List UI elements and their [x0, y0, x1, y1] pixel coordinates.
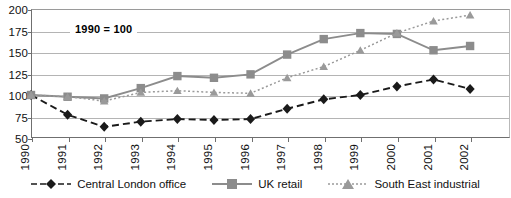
x-axis-tick-label: 1994: [165, 144, 177, 170]
y-axis-tick-label: 75: [15, 112, 28, 124]
gridline: [32, 96, 509, 97]
x-axis-tick-mark: [142, 137, 143, 142]
x-axis-tick-mark: [435, 137, 436, 142]
x-axis-tick-label: 2002: [458, 144, 470, 170]
diamond-marker-icon: [31, 177, 71, 191]
x-axis-tick-mark: [178, 137, 179, 142]
legend-item-south-east-industrial[interactable]: South East industrial: [328, 177, 479, 191]
x-axis-tick-mark: [288, 137, 289, 142]
y-axis-tick-label: 100: [9, 90, 29, 102]
x-axis-tick-mark: [471, 137, 472, 142]
x-axis-tick-mark: [398, 137, 399, 142]
x-axis-tick-label: 2001: [422, 144, 434, 170]
gridline: [32, 75, 509, 76]
y-axis-tick-mark: [28, 118, 32, 119]
y-axis-tick-label: 125: [9, 69, 29, 81]
y-axis-tick-label: 175: [9, 26, 29, 38]
x-axis-tick-label: 1991: [56, 144, 68, 170]
x-axis-tick-label: 1990: [19, 144, 31, 170]
x-axis-tick-mark: [32, 137, 33, 142]
gridline: [32, 118, 509, 119]
legend-item-central-london-office[interactable]: Central London office: [31, 177, 186, 191]
x-axis-tick-mark: [69, 137, 70, 142]
x-axis-tick-label: 1997: [275, 144, 287, 170]
y-axis-tick-mark: [28, 10, 32, 11]
base-year-annotation: 1990 = 100: [70, 23, 137, 35]
x-axis-tick-mark: [252, 137, 253, 142]
x-axis-tick-label: 1993: [129, 144, 141, 170]
y-axis-tick-mark: [28, 32, 32, 33]
x-axis-tick-label: 1996: [239, 144, 251, 170]
x-axis-tick-label: 1995: [202, 144, 214, 170]
x-axis-tick-mark: [105, 137, 106, 142]
legend-label: South East industrial: [374, 178, 479, 190]
y-axis-tick-mark: [28, 75, 32, 76]
y-axis-tick-mark: [28, 53, 32, 54]
square-marker-icon: [212, 177, 252, 191]
x-axis-tick-mark: [325, 137, 326, 142]
x-axis-tick-mark: [215, 137, 216, 142]
y-axis-tick-mark: [28, 96, 32, 97]
x-axis-tick-mark: [361, 137, 362, 142]
x-axis-tick-label: 1998: [312, 144, 324, 170]
y-axis-tick-label: 150: [9, 47, 29, 59]
chart-legend: Central London office UK retail South Ea…: [0, 170, 511, 198]
line-chart: 2001751501251007550 1990 = 100 Central L…: [0, 0, 511, 198]
triangle-marker-icon: [328, 177, 368, 191]
x-axis-tick-label: 1999: [348, 144, 360, 170]
legend-label: Central London office: [77, 178, 186, 190]
legend-item-uk-retail[interactable]: UK retail: [212, 177, 302, 191]
gridline: [32, 53, 509, 54]
x-axis-tick-label: 1992: [92, 144, 104, 170]
y-axis-tick-label: 200: [9, 4, 29, 16]
legend-label: UK retail: [258, 178, 302, 190]
x-axis-tick-label: 2000: [385, 144, 397, 170]
